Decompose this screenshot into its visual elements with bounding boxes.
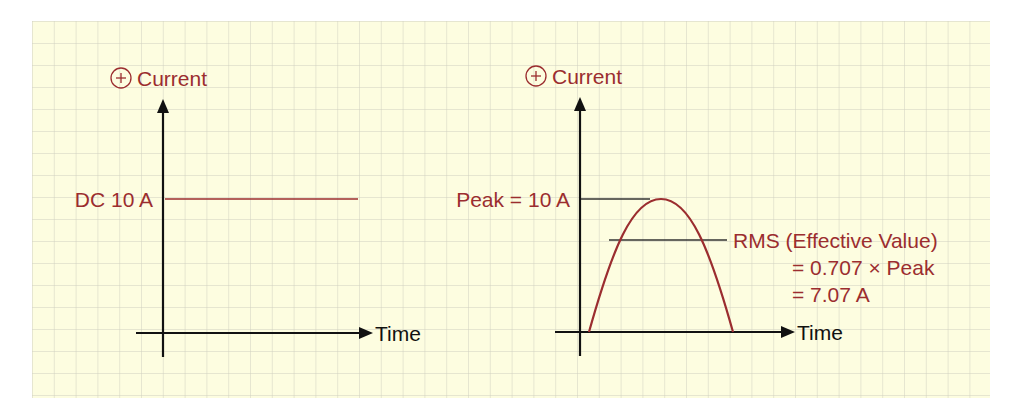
rms-label-line3: = 7.07 A	[792, 283, 870, 306]
ac-y-axis-label: Current	[552, 65, 622, 88]
peak-label: Peak = 10 A	[456, 188, 570, 211]
rms-label-line1: RMS (Effective Value)	[733, 229, 938, 252]
dc-level-label: DC 10 A	[75, 188, 153, 211]
rms-label-line2: = 0.707 × Peak	[792, 256, 935, 279]
current-comparison-diagram: Current DC 10 A Time Current Peak = 10 A…	[0, 0, 1021, 416]
dc-x-axis-label: Time	[375, 322, 421, 345]
dc-y-axis-label: Current	[137, 67, 207, 90]
ac-x-axis-label: Time	[797, 321, 843, 344]
